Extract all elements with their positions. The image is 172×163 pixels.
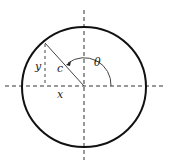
arrowhead-icon	[66, 61, 71, 66]
label-x: x	[57, 88, 64, 101]
radius-line-c	[45, 43, 84, 86]
label-theta: θ	[94, 56, 101, 69]
theta-arc	[68, 58, 111, 86]
label-y: y	[34, 60, 42, 73]
label-c: c	[57, 62, 63, 75]
polar-coordinate-diagram: y c θ x	[0, 0, 172, 163]
